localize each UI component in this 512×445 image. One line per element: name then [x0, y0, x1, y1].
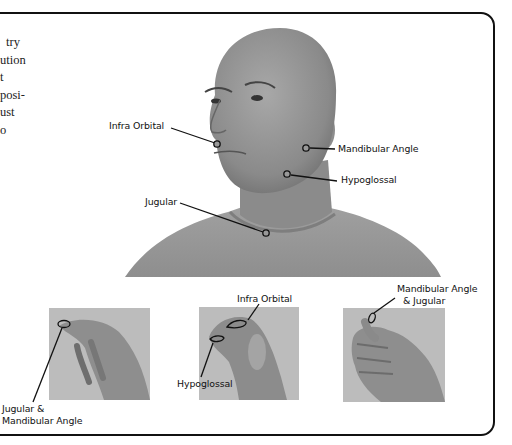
label-mandibular-angle: Mandibular Angle: [338, 143, 419, 154]
label-hand3-line1: Mandibular Angle: [397, 283, 478, 294]
annotation-overlay: [0, 0, 512, 445]
label-hand1-line2: Mandibular Angle: [2, 415, 83, 426]
label-jugular: Jugular: [145, 196, 177, 207]
label-hand2-bottom: Hypoglossal: [177, 378, 233, 389]
label-hypoglossal: Hypoglossal: [341, 174, 397, 185]
label-hand1-line1: Jugular &: [2, 403, 44, 414]
label-hand2-top: Infra Orbital: [237, 293, 292, 304]
label-infra-orbital: Infra Orbital: [109, 120, 164, 131]
label-hand3-line2: & Jugular: [403, 295, 445, 306]
